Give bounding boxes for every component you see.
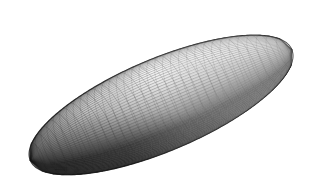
figure-panel: (b): [0, 0, 317, 194]
ellipsoid-mesh-figure: [0, 0, 317, 194]
